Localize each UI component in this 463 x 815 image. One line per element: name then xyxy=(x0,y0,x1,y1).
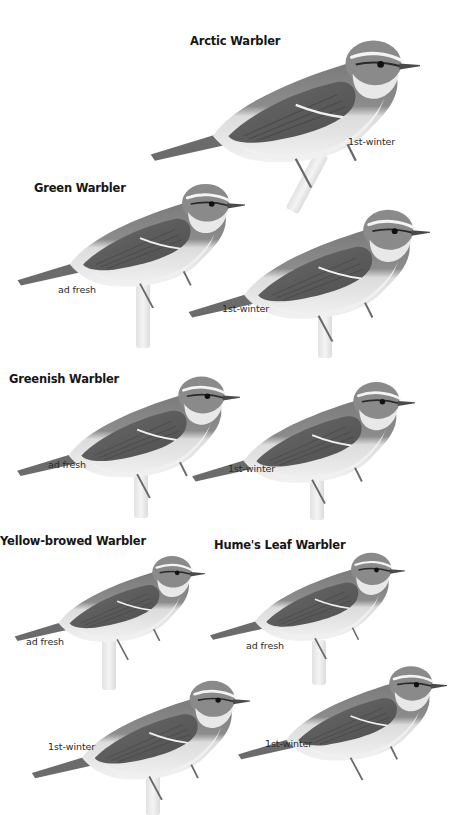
age-label: 1st-winter xyxy=(48,741,95,752)
bird-illustration-greenish-warbler-1st-winter xyxy=(175,362,415,517)
bird-illustration-yellow-browed-warbler-1st-winter xyxy=(15,662,250,812)
age-label: ad fresh xyxy=(58,284,96,295)
age-label: 1st-winter xyxy=(348,136,395,147)
bird-illustration-yellow-browed-warbler-ad-fresh xyxy=(0,530,205,680)
age-label: 1st-winter xyxy=(265,738,312,749)
bird-illustration-green-warbler-1st-winter xyxy=(170,192,430,352)
bird-illustration-humes-leaf-warbler-1st-winter xyxy=(222,650,447,790)
age-label: 1st-winter xyxy=(228,463,275,474)
age-label: ad fresh xyxy=(26,636,64,647)
age-label: ad fresh xyxy=(48,459,86,470)
age-label: 1st-winter xyxy=(222,303,269,314)
